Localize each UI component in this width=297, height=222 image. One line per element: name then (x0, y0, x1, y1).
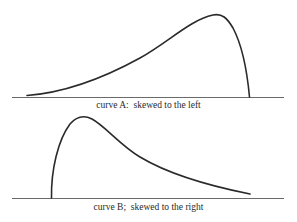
caption-curve-a: curve A: skewed to the left (0, 100, 297, 110)
panel-curve-b (12, 117, 284, 199)
curve-b-right-skewed (51, 117, 250, 198)
panel-curve-a (12, 15, 284, 98)
curve-a-left-skewed (27, 15, 250, 97)
skewness-diagram (0, 0, 297, 222)
caption-curve-b: curve B; skewed to the right (0, 202, 297, 212)
